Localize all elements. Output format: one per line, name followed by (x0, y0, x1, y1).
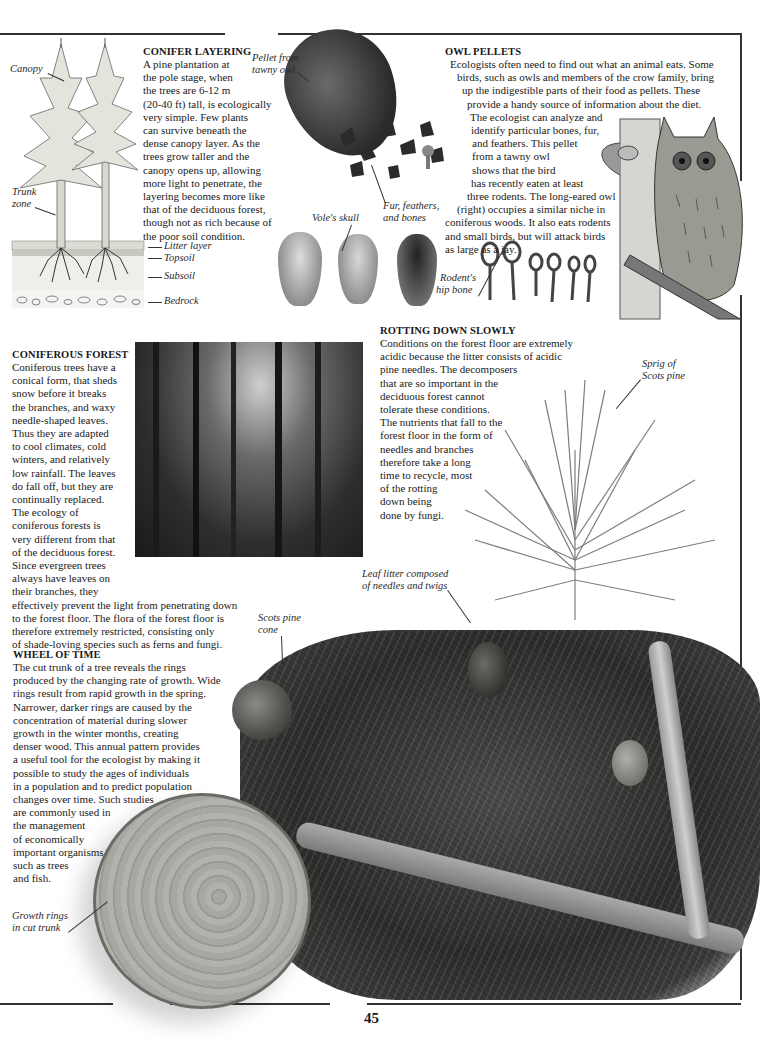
pine-cone-image (468, 642, 508, 698)
leader-subsoil (148, 277, 162, 278)
label-bedrock: Bedrock (164, 295, 199, 307)
caption-leaf-litter-2: of needles and twigs (362, 580, 447, 592)
caption-growth-rings-1: Growth rings (12, 910, 68, 922)
caption-pellet-1: Pellet from (252, 52, 299, 64)
label-trunk-zone-2: zone (12, 198, 31, 210)
page-number: 45 (364, 1010, 379, 1027)
label-topsoil: Topsoil (164, 252, 195, 264)
owl-pellets-heading: OWL PELLETS (445, 45, 745, 58)
caption-sprig-1: Sprig of (642, 358, 676, 370)
leader-topsoil (148, 258, 162, 259)
pine-cone-image-2 (612, 740, 648, 786)
rotting-down-heading: ROTTING DOWN SLOWLY (380, 324, 573, 337)
scots-pine-cone-image (232, 680, 292, 740)
label-trunk-zone-1: Trunk (12, 186, 37, 198)
caption-fur-2: and bones (383, 212, 426, 224)
scots-pine-sprig-image (445, 370, 745, 640)
label-subsoil: Subsoil (164, 270, 195, 282)
caption-vole-skull: Vole's skull (312, 212, 359, 224)
conifer-layering-diagram (10, 38, 150, 318)
caption-scots-pine-cone-2: cone (258, 624, 278, 636)
conifer-layering-text: A pine plantation at the pole stage, whe… (143, 58, 272, 243)
coniferous-forest-photo (135, 342, 363, 557)
vole-skull-image-1 (278, 232, 322, 306)
vole-skull-image-3 (397, 234, 437, 306)
leader-bedrock (148, 302, 162, 303)
leader-litter (148, 247, 162, 248)
caption-scots-pine-cone-1: Scots pine (258, 612, 301, 624)
label-canopy: Canopy (10, 63, 43, 75)
caption-pellet-2: tawny owl (252, 64, 295, 76)
caption-sprig-2: Scots pine (642, 370, 685, 382)
pellet-fragments-image (330, 95, 450, 195)
cut-trunk-image (93, 793, 311, 1009)
pine-trees-illustration (10, 38, 150, 318)
bottom-rule-right (367, 1003, 741, 1005)
caption-growth-rings-2: in cut trunk (12, 922, 60, 934)
caption-leaf-litter-1: Leaf litter composed (362, 568, 448, 580)
top-rule-left (0, 33, 225, 35)
long-eared-owl-illustration (600, 115, 750, 320)
bottom-rule-left (0, 1003, 113, 1005)
leader-pine-cone (281, 636, 283, 662)
wheel-of-time-heading: WHEEL OF TIME (13, 648, 221, 661)
caption-hip-1: Rodent's (440, 272, 476, 284)
caption-fur-1: Fur, feathers, (383, 200, 439, 212)
caption-hip-2: hip bone (436, 284, 472, 296)
